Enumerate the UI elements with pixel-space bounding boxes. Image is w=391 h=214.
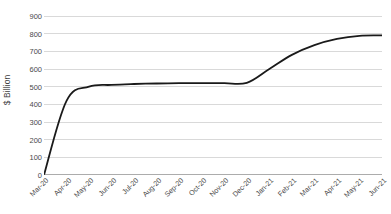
x-axis-tick-text: Jan-21 xyxy=(254,176,276,198)
gridlines xyxy=(44,16,382,157)
x-axis-tick-text: Mar-21 xyxy=(298,176,320,198)
y-axis-tick-label: 900 xyxy=(16,12,42,21)
x-axis-tick-text: Jun-20 xyxy=(96,176,118,198)
y-axis-tick-label: 500 xyxy=(16,82,42,91)
y-axis-tick-label: 400 xyxy=(16,100,42,109)
x-axis-tick-text: Feb-21 xyxy=(276,176,298,198)
series-group xyxy=(44,35,382,175)
x-axis-tick-text: Apr-21 xyxy=(322,176,344,198)
x-axis-tick-text: Aug-20 xyxy=(140,176,163,199)
y-axis-tick-label: 0 xyxy=(16,171,42,180)
x-axis-tick-text: Jul-20 xyxy=(120,176,140,196)
x-axis-tick-labels: Mar-20Apr-20May-20Jun-20Jul-20Aug-20Sep-… xyxy=(44,176,382,214)
x-axis-tick-label: Jun-21 xyxy=(382,160,391,182)
x-axis-tick-text: Apr-20 xyxy=(51,176,73,198)
x-axis-tick-text: Dec-20 xyxy=(230,176,253,199)
plot-svg xyxy=(44,16,382,175)
y-axis-tick-label: 100 xyxy=(16,153,42,162)
y-axis-tick-label: 600 xyxy=(16,65,42,74)
y-axis-tick-label: 800 xyxy=(16,29,42,38)
y-axis-tick-label: 700 xyxy=(16,47,42,56)
x-axis-tick-text: Jun-21 xyxy=(366,176,388,198)
y-axis-title-label: $ Billion xyxy=(2,75,12,106)
x-axis-tick-text: Oct-20 xyxy=(186,176,208,198)
y-axis-tick-label: 200 xyxy=(16,135,42,144)
series-line xyxy=(44,35,382,175)
y-axis-tick-label: 300 xyxy=(16,118,42,127)
plot-area xyxy=(44,16,382,175)
